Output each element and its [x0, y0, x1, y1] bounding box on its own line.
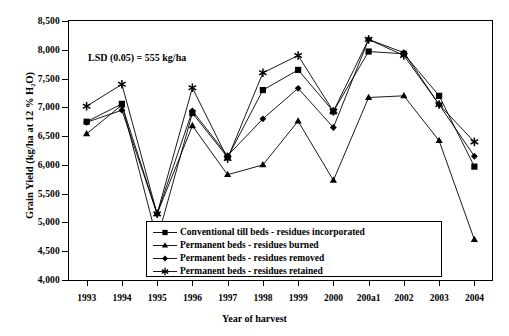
x-tick-mark — [474, 281, 475, 286]
x-tick-mark — [122, 281, 123, 286]
x-tick-label: 1996 — [183, 293, 202, 303]
y-tick-label: 6,000 — [0, 160, 60, 170]
x-tick-label: 2000 — [324, 293, 343, 303]
legend-marker-square — [152, 225, 178, 238]
legend-marker-triangle — [152, 238, 178, 251]
series-line — [87, 39, 475, 213]
legend-label: Conventional till beds - residues incorp… — [178, 227, 365, 237]
y-tick-label: 8,500 — [0, 16, 60, 26]
x-tick-mark — [333, 281, 334, 286]
data-point-triangle — [162, 242, 168, 247]
x-tick-label: 1995 — [148, 293, 167, 303]
x-tick-mark — [298, 281, 299, 286]
data-point-square — [471, 164, 477, 170]
legend-item: Permanent beds - residues retained — [152, 264, 436, 277]
data-point-diamond — [162, 256, 168, 262]
x-tick-label: 1997 — [218, 293, 237, 303]
x-tick-mark — [439, 281, 440, 286]
legend-marker-asterisk — [152, 264, 178, 277]
y-tick-label: 6,500 — [0, 131, 60, 141]
x-tick-mark — [157, 281, 158, 286]
x-tick-mark — [404, 281, 405, 286]
x-axis-title: Year of harvest — [0, 313, 509, 324]
lsd-annotation: LSD (0.05) = 555 kg/ha — [88, 52, 186, 63]
legend-item: Conventional till beds - residues incorp… — [152, 225, 436, 238]
legend-label: Permanent beds - residues removed — [178, 253, 324, 263]
x-tick-label: 1998 — [253, 293, 272, 303]
data-point-asterisk — [83, 102, 90, 111]
legend: Conventional till beds - residues incorp… — [146, 221, 442, 277]
legend-item: Permanent beds - residues removed — [152, 251, 436, 264]
data-point-triangle — [83, 130, 90, 136]
x-tick-mark — [228, 281, 229, 286]
data-point-asterisk — [118, 80, 125, 89]
x-tick-mark — [192, 281, 193, 286]
x-tick-label: 1994 — [112, 293, 131, 303]
data-point-square — [295, 67, 301, 73]
x-tick-mark — [263, 281, 264, 286]
series-line — [87, 52, 475, 240]
y-tick-label: 7,500 — [0, 74, 60, 84]
y-tick-label: 4,500 — [0, 246, 60, 256]
x-tick-label: 2002 — [394, 293, 413, 303]
x-tick-label: 200a1 — [357, 293, 381, 303]
data-point-square — [366, 48, 372, 54]
y-tick-label: 5,000 — [0, 217, 60, 227]
legend-label: Permanent beds - residues burned — [178, 240, 319, 250]
y-tick-label: 8,000 — [0, 45, 60, 55]
data-point-triangle — [471, 236, 478, 242]
data-point-triangle — [365, 94, 372, 100]
data-point-asterisk — [259, 69, 266, 78]
data-point-square — [436, 93, 442, 99]
legend-item: Permanent beds - residues burned — [152, 238, 436, 251]
data-point-asterisk — [189, 83, 196, 92]
data-point-diamond — [471, 153, 478, 160]
data-point-asterisk — [294, 51, 301, 60]
series-line — [87, 39, 475, 213]
y-tick-label: 5,500 — [0, 189, 60, 199]
x-tick-label: 1993 — [77, 293, 96, 303]
x-tick-label: 2003 — [430, 293, 449, 303]
legend-label: Permanent beds - residues retained — [178, 266, 323, 276]
x-tick-label: 2004 — [465, 293, 484, 303]
x-axis: 19931994199519961997199819992000200a1200… — [0, 281, 509, 311]
data-point-square — [162, 230, 167, 235]
x-tick-mark — [369, 281, 370, 286]
data-point-square — [260, 87, 266, 93]
legend-marker-diamond — [152, 251, 178, 264]
data-point-triangle — [330, 177, 337, 183]
y-tick-label: 7,000 — [0, 102, 60, 112]
x-tick-label: 1999 — [289, 293, 308, 303]
data-point-triangle — [400, 92, 407, 98]
x-tick-mark — [87, 281, 88, 286]
chart-figure: Grain Yield (kg/ha at 12 % H₂O) 4,0004,5… — [0, 0, 509, 336]
data-point-triangle — [295, 117, 302, 123]
